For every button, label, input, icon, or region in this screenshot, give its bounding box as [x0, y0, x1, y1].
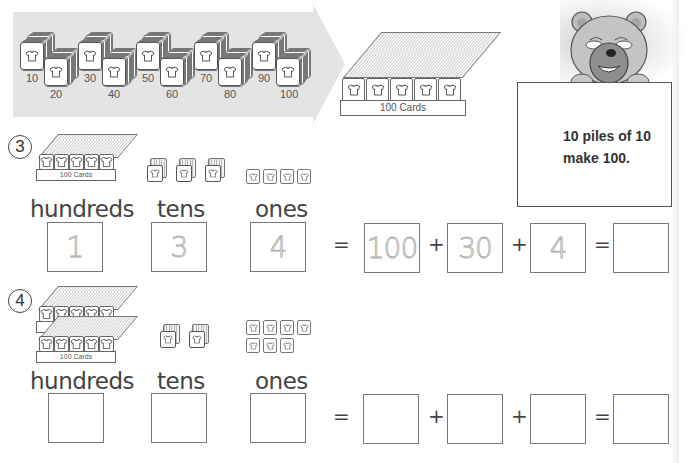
shirt-icon [25, 50, 39, 62]
shirt-icon [347, 84, 361, 96]
plus-sign: + [428, 232, 445, 256]
bear-icon [560, 8, 660, 88]
equals-sign: = [333, 232, 350, 256]
card-stack-of-ten [176, 158, 196, 182]
traced-digit: 4 [270, 231, 287, 264]
tray-label: 100 Cards [36, 351, 116, 363]
total-answer-box[interactable] [613, 223, 669, 273]
shirt-icon [371, 84, 385, 96]
card-stack-of-ten [102, 46, 134, 86]
single-card [263, 320, 277, 335]
ones-answer-box[interactable]: 4 [250, 222, 306, 272]
card-stack-of-ten [218, 46, 250, 86]
hundreds-value-box[interactable] [363, 394, 419, 444]
shirt-icon [419, 84, 433, 96]
plus-sign: + [511, 232, 528, 256]
single-card [263, 338, 277, 353]
stack-count-label: 70 [200, 72, 212, 84]
single-card [263, 169, 277, 184]
tray-card [438, 78, 461, 102]
shirt-icon [83, 50, 97, 62]
hundreds-answer-box[interactable]: 1 [47, 222, 103, 272]
tray-card [342, 78, 365, 102]
ones-answer-box[interactable] [250, 393, 306, 443]
shirt-icon [395, 84, 409, 96]
ones-value-box[interactable]: 4 [530, 223, 586, 273]
sign-text: 10 piles of 10 make 100. [563, 125, 651, 169]
stack-count-label: 20 [50, 88, 62, 100]
tray-card [390, 78, 413, 102]
single-card [280, 320, 294, 335]
card-stack-of-ten [160, 46, 192, 86]
single-card [297, 320, 311, 335]
tray-label: 100 Cards [340, 100, 466, 116]
plus-sign: + [511, 404, 528, 428]
shirt-icon [257, 50, 271, 62]
shirt-icon [208, 169, 218, 178]
single-card [246, 338, 260, 353]
shirt-icon [100, 156, 113, 168]
tens-value-box[interactable] [447, 394, 503, 444]
ones-value-box[interactable] [530, 394, 586, 444]
shirt-icon [85, 338, 98, 350]
sign-line-2: make 100. [563, 147, 651, 169]
stack-count-label: 80 [224, 88, 236, 100]
shirt-icon [266, 173, 275, 181]
ones-label: ones [255, 196, 308, 222]
tens-answer-box[interactable] [151, 393, 207, 443]
hundred-card-tray: 100 Cards [36, 134, 136, 184]
shirt-icon [300, 173, 309, 181]
shirt-icon [283, 342, 292, 350]
bear-sign: 10 piles of 10 make 100. [517, 82, 672, 207]
tens-answer-box[interactable]: 3 [151, 222, 207, 272]
shirt-icon [70, 338, 83, 350]
stack-count-label: 60 [166, 88, 178, 100]
shirt-icon [249, 173, 258, 181]
hundreds-label: hundreds [30, 196, 134, 222]
single-card [280, 169, 294, 184]
traced-digit: 1 [67, 231, 84, 264]
shirt-icon [249, 342, 258, 350]
shirt-icon [249, 324, 258, 332]
shirt-icon [49, 66, 63, 78]
card-stack-of-ten [189, 324, 209, 348]
tens-label: tens [157, 368, 205, 394]
card-stack-of-ten [205, 158, 225, 182]
problem-number: 4 [8, 289, 32, 313]
traced-number: 100 [367, 232, 417, 265]
shirt-icon [165, 66, 179, 78]
tray-card [366, 78, 389, 102]
equals-sign: = [594, 404, 611, 428]
stack-count-label: 90 [258, 72, 270, 84]
single-card [297, 169, 311, 184]
shirt-icon [40, 156, 53, 168]
ones-label: ones [255, 368, 308, 394]
total-answer-box[interactable] [613, 394, 669, 444]
stack-count-label: 50 [142, 72, 154, 84]
shirt-icon [223, 66, 237, 78]
card-stack-of-ten [44, 46, 76, 86]
shirt-icon [85, 156, 98, 168]
shirt-icon [163, 335, 173, 344]
shirt-icon [300, 324, 309, 332]
single-card [246, 320, 260, 335]
tens-value-box[interactable]: 30 [447, 223, 503, 273]
traced-number: 30 [458, 232, 492, 265]
problem-number: 3 [8, 135, 32, 159]
traced-number: 4 [550, 232, 567, 265]
shirt-icon [55, 156, 68, 168]
hundreds-answer-box[interactable] [48, 393, 104, 443]
hundreds-value-box[interactable]: 100 [364, 223, 420, 273]
card-stack-of-ten [147, 158, 167, 182]
stack-count-label: 40 [108, 88, 120, 100]
shirt-icon [283, 173, 292, 181]
equals-sign: = [333, 404, 350, 428]
sign-line-1: 10 piles of 10 [563, 125, 651, 147]
shirt-icon [266, 342, 275, 350]
shirt-icon [107, 66, 121, 78]
shirt-icon [70, 156, 83, 168]
plus-sign: + [428, 404, 445, 428]
shirt-icon [100, 338, 113, 350]
hundred-card-tray: 100 Cards [340, 30, 490, 120]
shirt-icon [266, 324, 275, 332]
